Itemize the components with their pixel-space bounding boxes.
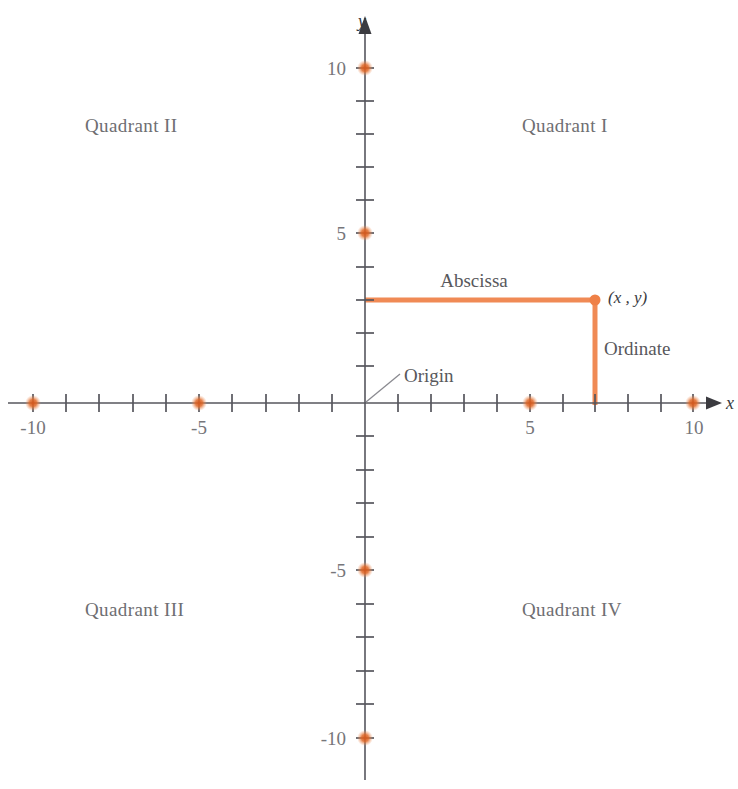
x-tick-label-5: 5 — [525, 418, 535, 437]
y-axis-label: y — [358, 12, 366, 30]
quadrant-four-label: Quadrant IV — [522, 600, 622, 619]
x-tick-label-10: 10 — [685, 418, 704, 437]
plotted-point-label: (x , y) — [608, 289, 647, 306]
x-axis-arrowhead — [706, 397, 722, 410]
origin-label: Origin — [404, 366, 454, 385]
axis-dot-y-5 — [357, 225, 373, 241]
x-tick-label-neg5: -5 — [191, 418, 207, 437]
x-axis-label: x — [726, 394, 734, 412]
axis-dot-y-10 — [357, 60, 373, 76]
y-tick-label-neg5: -5 — [330, 561, 346, 580]
axis-dot-x-5 — [522, 395, 538, 411]
coordinate-plane-figure: -10 -5 5 10 10 5 -5 -10 x y Quadrant I Q… — [0, 0, 738, 789]
guide-segments — [365, 300, 595, 405]
axis-dot-x-neg10 — [25, 395, 41, 411]
axis-dot-y-neg10 — [357, 730, 373, 746]
y-tick-label-10: 10 — [327, 59, 346, 78]
origin-leader-line — [366, 374, 400, 402]
abscissa-label: Abscissa — [440, 271, 508, 290]
y-tick-label-5: 5 — [337, 224, 347, 243]
axis-dot-x-10 — [685, 395, 701, 411]
ordinate-label: Ordinate — [604, 339, 670, 358]
quadrant-one-label: Quadrant I — [522, 116, 608, 135]
plotted-point-marker[interactable] — [590, 295, 601, 306]
axis-dot-y-neg5 — [357, 562, 373, 578]
quadrant-three-label: Quadrant III — [85, 600, 184, 619]
quadrant-two-label: Quadrant II — [85, 116, 178, 135]
axis-dot-x-neg5 — [191, 395, 207, 411]
y-tick-label-neg10: -10 — [321, 729, 346, 748]
x-tick-label-neg10: -10 — [20, 418, 45, 437]
